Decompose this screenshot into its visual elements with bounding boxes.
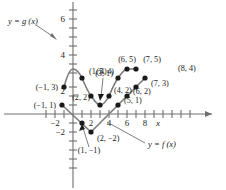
point-g--1-3 xyxy=(61,84,66,89)
x-tick-label-8: 8 xyxy=(143,118,148,128)
label-f-function: y = f (x) xyxy=(147,139,176,149)
label-g-2-2: (2, 2) xyxy=(72,93,90,102)
x-tick-label-6: 6 xyxy=(125,118,130,128)
point-f-2--2 xyxy=(88,129,93,134)
point-f--1-1 xyxy=(59,102,64,107)
label-f-7-3: (7, 3) xyxy=(151,79,169,88)
x-axis-name: x xyxy=(155,118,160,128)
x-axis-arrowhead xyxy=(205,111,212,117)
graph-canvas: −2 2 4 6 8 6 4 2 −2 x xyxy=(0,0,226,190)
point-f-8-4 xyxy=(142,75,147,80)
label-f-1--1: (1, −1) xyxy=(78,146,101,155)
leader-3-1-arrowhead xyxy=(98,94,104,101)
label-f-2--2: (2, −2) xyxy=(97,134,120,143)
label-f-8-4: (8, 4) xyxy=(178,64,196,73)
point-g-5-4 xyxy=(115,75,120,80)
leader-point-1--1 xyxy=(83,128,89,147)
label-f-6-2: (6, 2) xyxy=(133,87,151,96)
x-tick-label-2: 2 xyxy=(89,118,94,128)
point-g-4-2 xyxy=(106,93,111,98)
label-g--1-3: (−1, 3) xyxy=(36,83,59,92)
label-g-5-4: (5, 4) xyxy=(96,67,114,76)
label-g-7-5: (7, 5) xyxy=(143,55,161,64)
label-f--1-1: (−1, 1) xyxy=(34,101,57,110)
point-f-5-1 xyxy=(115,102,120,107)
point-g-6-5 xyxy=(124,66,129,71)
label-g-4-2: (4, 2) xyxy=(114,86,132,95)
point-g-3-1 xyxy=(97,102,102,107)
label-g-6-5: (6, 5) xyxy=(118,55,136,64)
point-g-7-5 xyxy=(133,66,138,71)
y-tick-label-6: 6 xyxy=(61,14,66,24)
point-g-1-4 xyxy=(79,75,84,80)
y-tick-label--2: −2 xyxy=(55,127,65,137)
y-tick-label-4: 4 xyxy=(61,50,66,60)
leader-g-arrowhead xyxy=(50,33,57,40)
label-g-function: y = g (x) xyxy=(7,16,38,26)
label-f-5-1: (5, 1) xyxy=(124,96,142,105)
function-graph-figure: −2 2 4 6 8 6 4 2 −2 x xyxy=(0,0,226,190)
